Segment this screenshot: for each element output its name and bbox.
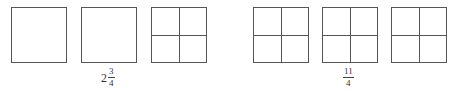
improper-fraction-label: 11 4	[342, 67, 354, 88]
quartered-square-3	[391, 7, 447, 63]
quartered-square-1	[253, 7, 309, 63]
whole-part: 2	[101, 72, 107, 84]
numerator: 3	[108, 67, 115, 76]
fraction: 3 4	[108, 67, 115, 88]
horizontal-divider	[152, 35, 206, 36]
denominator: 4	[346, 79, 351, 88]
whole-square-2	[81, 7, 137, 63]
whole-square-1	[11, 7, 67, 63]
horizontal-divider	[254, 35, 308, 36]
numerator: 11	[343, 67, 354, 76]
denominator: 4	[109, 79, 114, 88]
fraction: 11 4	[343, 67, 354, 88]
quartered-square	[151, 7, 207, 63]
mixed-number-label: 2 3 4	[101, 67, 115, 88]
quartered-square-2	[322, 7, 378, 63]
horizontal-divider	[392, 35, 446, 36]
horizontal-divider	[323, 35, 377, 36]
